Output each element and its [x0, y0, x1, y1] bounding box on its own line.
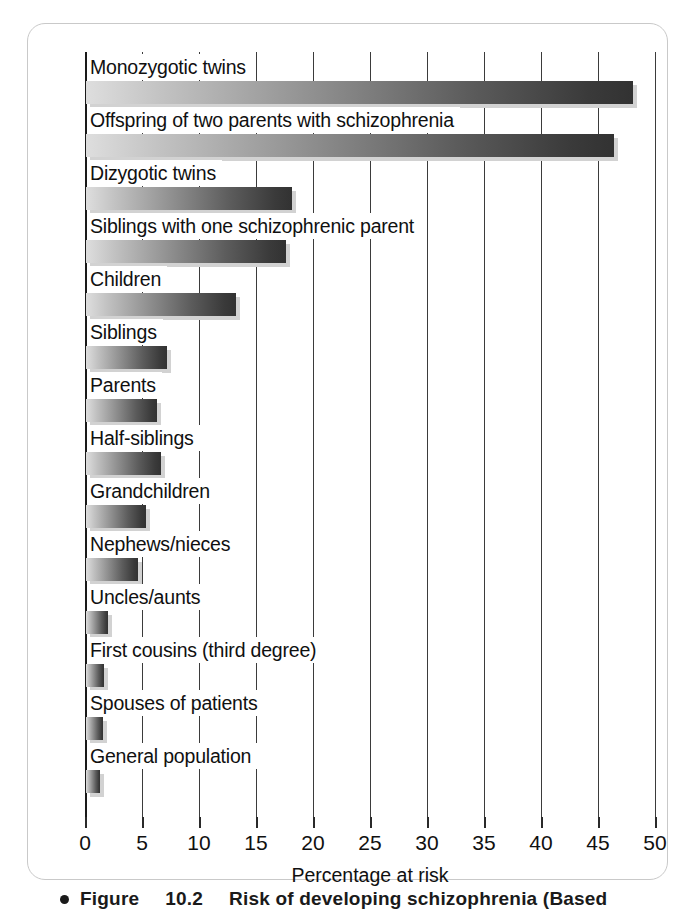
bar-row: Siblings [85, 319, 655, 372]
tick-label-15: 15 [244, 830, 267, 856]
bar-rows-group: Monozygotic twinsOffspring of two parent… [85, 52, 655, 817]
bar-category-label: Siblings [88, 319, 163, 345]
bar-category-label: Half-siblings [88, 425, 200, 451]
caption-text: Risk of developing schizophrenia (Based [229, 888, 607, 909]
tick-mark-20 [313, 817, 315, 828]
bar-row: Nephews/nieces [85, 531, 655, 584]
tick-label-10: 10 [187, 830, 210, 856]
tick-label-50: 50 [643, 830, 666, 856]
bar-category-label: Spouses of patients [88, 690, 263, 716]
bar-category-label: General population [88, 743, 257, 769]
x-axis-tick-labels: 05101520253035404550 [85, 830, 655, 858]
bar [86, 187, 292, 210]
tick-mark-15 [256, 817, 258, 828]
bar-fill [86, 505, 146, 528]
tick-mark-45 [598, 817, 600, 828]
bar-row: General population [85, 743, 655, 796]
bar-fill [86, 452, 161, 475]
bar-row: First cousins (third degree) [85, 637, 655, 690]
bar-fill [86, 293, 236, 316]
bar [86, 293, 236, 316]
tick-label-25: 25 [358, 830, 381, 856]
bar-fill [86, 611, 108, 634]
gridline-50 [655, 52, 656, 817]
bar-fill [86, 346, 167, 369]
bar [86, 346, 167, 369]
bar-category-label: Uncles/aunts [88, 584, 206, 610]
bar-category-label: Grandchildren [88, 478, 216, 504]
bullet-icon [60, 895, 69, 904]
bar-fill [86, 664, 104, 687]
bar-category-label: Siblings with one schizophrenic parent [88, 213, 420, 239]
bar-category-label: Children [88, 266, 167, 292]
bar-category-label: Offspring of two parents with schizophre… [88, 107, 460, 133]
tick-mark-25 [370, 817, 372, 828]
bar [86, 717, 103, 740]
bar-category-label: Dizygotic twins [88, 160, 222, 186]
tick-label-30: 30 [415, 830, 438, 856]
bar [86, 770, 100, 793]
bar [86, 240, 286, 263]
bar [86, 664, 104, 687]
figure-caption: Figure10.2Risk of developing schizophren… [0, 888, 693, 909]
bar-row: Parents [85, 372, 655, 425]
bar-row: Grandchildren [85, 478, 655, 531]
bar-fill [86, 240, 286, 263]
tick-mark-30 [427, 817, 429, 828]
bar-fill [86, 770, 100, 793]
bar-row: Children [85, 266, 655, 319]
bar-category-label: First cousins (third degree) [88, 637, 322, 663]
bar-fill [86, 134, 614, 157]
bar-fill [86, 81, 633, 104]
tick-mark-0 [85, 817, 87, 828]
bar [86, 452, 161, 475]
bar-category-label: Monozygotic twins [88, 54, 252, 80]
bar-row: Offspring of two parents with schizophre… [85, 107, 655, 160]
bar-row: Half-siblings [85, 425, 655, 478]
tick-label-5: 5 [136, 830, 148, 856]
bar [86, 558, 138, 581]
bar [86, 505, 146, 528]
tick-label-35: 35 [472, 830, 495, 856]
bar-row: Uncles/aunts [85, 584, 655, 637]
tick-label-45: 45 [586, 830, 609, 856]
tick-label-20: 20 [301, 830, 324, 856]
x-axis-title: Percentage at risk [85, 864, 655, 887]
tick-label-0: 0 [79, 830, 91, 856]
tick-mark-50 [655, 817, 657, 828]
bar-category-label: Nephews/nieces [88, 531, 236, 557]
chart-plot-area: Monozygotic twinsOffspring of two parent… [85, 52, 655, 817]
tick-mark-40 [541, 817, 543, 828]
tick-mark-10 [199, 817, 201, 828]
x-axis-tick-marks [85, 817, 655, 829]
bar-row: Monozygotic twins [85, 54, 655, 107]
caption-number: 10.2 [165, 888, 203, 909]
bar [86, 611, 108, 634]
bar-category-label: Parents [88, 372, 162, 398]
tick-mark-35 [484, 817, 486, 828]
bar [86, 399, 157, 422]
bar-fill [86, 717, 103, 740]
bar-fill [86, 187, 292, 210]
tick-label-40: 40 [529, 830, 552, 856]
caption-label: Figure [80, 888, 139, 909]
bar [86, 81, 633, 104]
bar-row: Spouses of patients [85, 690, 655, 743]
bar-row: Siblings with one schizophrenic parent [85, 213, 655, 266]
bar-fill [86, 558, 138, 581]
figure-panel: Monozygotic twinsOffspring of two parent… [27, 23, 668, 880]
bar-row: Dizygotic twins [85, 160, 655, 213]
bar-fill [86, 399, 157, 422]
bar [86, 134, 614, 157]
tick-mark-5 [142, 817, 144, 828]
